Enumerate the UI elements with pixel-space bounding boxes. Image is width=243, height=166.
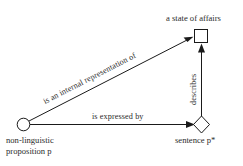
edge-description-label: describes [189, 74, 198, 105]
edge-description-arrowhead [198, 44, 205, 53]
node-sentence-label-star: * [211, 135, 215, 145]
diagram-canvas: is an internal representation of is expr… [0, 0, 243, 166]
node-state-of-affairs-label: a state of affairs [166, 13, 221, 24]
node-sentence-diamond[interactable] [194, 116, 210, 133]
node-state-of-affairs-square[interactable] [195, 30, 208, 43]
node-sentence-label-text: sentence p [175, 135, 211, 145]
edge-is-an-internal-representation-of: is an internal representation of [29, 37, 193, 121]
node-sentence-label: sentence p* [175, 135, 215, 146]
node-proposition-label-line1: non-linguistic [6, 135, 54, 145]
edge-is-expressed-by: is expressed by [30, 112, 195, 128]
edge-expression-label: is expressed by [92, 112, 144, 121]
edge-describes: describes [189, 44, 205, 118]
node-proposition-circle[interactable] [17, 118, 30, 131]
edge-representation-label: is an internal representation of [42, 51, 138, 106]
node-proposition-label: non-linguisticproposition p [6, 135, 54, 156]
node-proposition-label-line2: proposition p [6, 146, 52, 156]
edge-representation-line [29, 39, 189, 121]
